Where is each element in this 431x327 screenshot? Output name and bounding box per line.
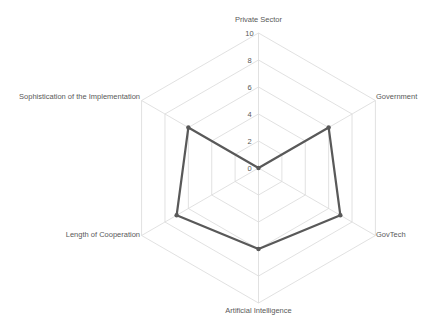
radial-tick-label: 6 — [247, 83, 251, 92]
axis-labels: Private SectorGovernmentGovTechArtificia… — [19, 15, 418, 315]
radial-tick-label: 8 — [247, 56, 251, 65]
data-point[interactable] — [174, 213, 178, 217]
data-point[interactable] — [186, 125, 190, 129]
axis-label: Private Sector — [235, 15, 283, 24]
axis-label: Length of Cooperation — [66, 230, 140, 239]
data-point[interactable] — [326, 125, 330, 129]
radial-tick-label: 4 — [247, 110, 251, 119]
axis-label: Sophistication of the Implementation — [19, 92, 140, 101]
axis-label: Artificial Intelligence — [225, 306, 291, 315]
axis-label: Government — [376, 92, 418, 101]
data-point[interactable] — [256, 247, 260, 251]
radar-chart: 0246810 Private SectorGovernmentGovTechA… — [0, 0, 431, 327]
radial-tick-label: 10 — [245, 29, 253, 38]
radial-tick-label: 0 — [247, 164, 251, 173]
data-point[interactable] — [338, 213, 342, 217]
axis-label: GovTech — [376, 230, 406, 239]
radial-tick-labels: 0246810 — [245, 29, 253, 173]
data-point[interactable] — [256, 166, 260, 170]
radial-tick-label: 2 — [247, 137, 251, 146]
